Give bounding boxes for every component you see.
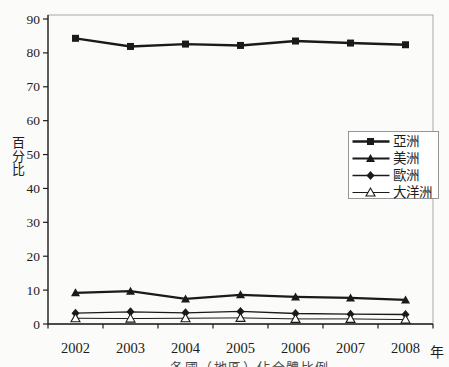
x-tick-label: 2002 [61, 340, 90, 356]
y-tick-label: 50 [27, 147, 41, 162]
legend: 亞洲美洲歐洲大洋洲 [349, 132, 439, 201]
y-tick-label: 60 [27, 113, 41, 128]
x-tick-label: 2005 [226, 340, 255, 356]
y-tick-label: 70 [27, 79, 41, 94]
open-triangle-marker-icon [71, 314, 80, 322]
x-tick-label: 2007 [336, 340, 365, 356]
legend-label: 美洲 [393, 151, 419, 166]
x-tick-label: 2008 [391, 340, 420, 356]
y-tick-label: 0 [33, 317, 40, 332]
y-tick-label: 20 [27, 249, 41, 264]
cropped-caption: 各國（地區）佔全體比例 [100, 360, 400, 367]
open-triangle-marker-icon [236, 313, 245, 321]
square-marker-icon [367, 138, 374, 145]
y-tick-label: 10 [27, 283, 41, 298]
x-axis: 2002200320042005200620072008 [48, 324, 433, 356]
series-americas [71, 287, 410, 304]
legend-label: 大洋洲 [393, 185, 432, 200]
line-chart-figure: 0102030405060708090200220032004200520062… [0, 0, 449, 367]
y-axis-title: 百分比 [11, 136, 26, 177]
y-tick-label: 30 [27, 215, 41, 230]
x-tick-label: 2004 [171, 340, 201, 356]
y-axis: 0102030405060708090 [27, 12, 49, 332]
y-tick-label: 40 [27, 181, 41, 196]
square-marker-icon [237, 42, 244, 49]
square-marker-icon [127, 43, 134, 50]
square-marker-icon [292, 38, 299, 45]
square-marker-icon [182, 41, 189, 48]
series-asia [72, 35, 409, 50]
legend-label: 歐洲 [393, 168, 419, 183]
square-marker-icon [72, 35, 79, 42]
x-tick-label: 2003 [116, 340, 145, 356]
y-tick-label: 80 [27, 45, 41, 60]
x-axis-title: 年 [430, 341, 444, 361]
square-marker-icon [347, 40, 354, 47]
plot-canvas: 0102030405060708090200220032004200520062… [0, 0, 449, 367]
x-tick-label: 2006 [281, 340, 310, 356]
y-tick-label: 90 [27, 12, 41, 27]
square-marker-icon [402, 41, 409, 48]
open-triangle-marker-icon [346, 314, 355, 322]
legend-label: 亞洲 [393, 134, 419, 149]
